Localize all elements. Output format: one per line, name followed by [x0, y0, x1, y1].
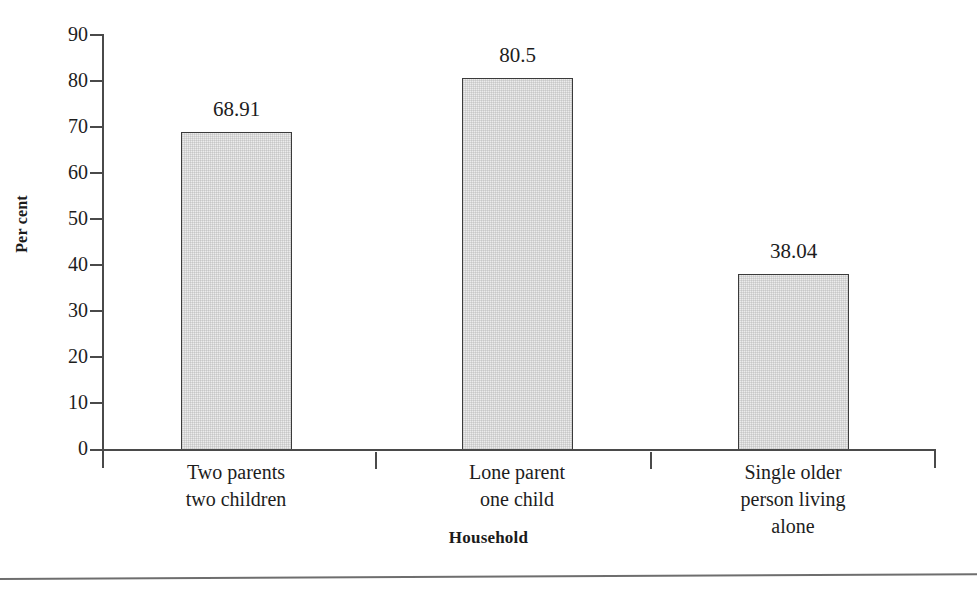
y-tick-mark-60	[90, 172, 103, 174]
y-tick-label-80: 80	[44, 70, 88, 90]
x-tick-label-line: two children	[146, 486, 326, 513]
y-tick-label-10: 10	[44, 392, 88, 412]
y-tick-mark-10	[90, 402, 103, 404]
x-tick-label-line: Lone parent	[427, 459, 607, 486]
x-axis-start-tick	[102, 449, 104, 468]
y-tick-label-40: 40	[44, 254, 88, 274]
y-tick-mark-80	[90, 80, 103, 82]
page-separator-rule	[0, 573, 977, 579]
bar-lone-parent-one-child	[462, 78, 573, 450]
x-tick-label-line: Two parents	[146, 459, 326, 486]
y-tick-label-90: 90	[44, 24, 88, 44]
value-label-lone-parent-one-child: 80.5	[447, 44, 588, 66]
x-tick-label-two-parents-two-children: Two parents two children	[146, 459, 326, 513]
x-tick-label-lone-parent-one-child: Lone parent one child	[427, 459, 607, 513]
y-tick-label-20: 20	[44, 346, 88, 366]
x-axis-category-divider-1	[375, 452, 377, 469]
bar-single-older-person-living-alone	[738, 274, 849, 450]
x-tick-label-line: one child	[427, 486, 607, 513]
y-tick-label-30: 30	[44, 300, 88, 320]
x-axis-title: Household	[0, 528, 977, 548]
y-tick-mark-20	[90, 356, 103, 358]
value-label-two-parents-two-children: 68.91	[166, 98, 307, 120]
y-tick-mark-70	[90, 126, 103, 128]
y-tick-mark-30	[90, 310, 103, 312]
y-tick-mark-90	[90, 34, 103, 36]
y-tick-label-60: 60	[44, 162, 88, 182]
y-tick-mark-50	[90, 218, 103, 220]
y-tick-label-50: 50	[44, 208, 88, 228]
x-axis-end-tick	[934, 449, 936, 468]
bar-chart-figure: Per cent 90 80 70 60 50 40 30 20 10 0 68…	[0, 0, 977, 597]
x-tick-label-line: person living	[703, 486, 883, 513]
y-axis-title: Per cent	[13, 174, 31, 274]
y-tick-label-0: 0	[44, 438, 88, 458]
x-axis-line	[102, 449, 935, 451]
x-tick-label-line: Single older	[703, 459, 883, 486]
x-axis-category-divider-2	[650, 452, 652, 469]
y-tick-mark-40	[90, 264, 103, 266]
value-label-single-older-person-living-alone: 38.04	[723, 240, 864, 262]
bar-two-parents-two-children	[181, 132, 292, 450]
y-tick-label-70: 70	[44, 116, 88, 136]
